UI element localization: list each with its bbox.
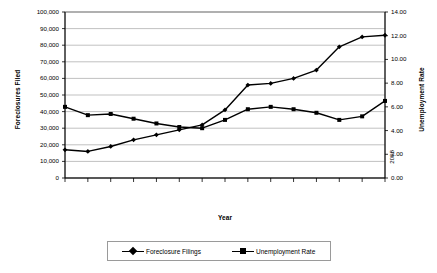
chart-legend: Foreclosure Filings Unemployment Rate — [107, 241, 331, 261]
data-point-unemployment-rate — [200, 126, 204, 130]
data-point-unemployment-rate — [269, 105, 273, 109]
data-point-unemployment-rate — [132, 117, 136, 121]
legend-label: Foreclosure Filings — [146, 248, 201, 255]
legend-marker-diamond-icon — [122, 247, 144, 255]
data-point-unemployment-rate — [246, 107, 250, 111]
legend-item-unemployment-rate: Unemployment Rate — [232, 247, 315, 255]
plot-area — [0, 0, 437, 273]
data-point-unemployment-rate — [177, 125, 181, 129]
data-point-unemployment-rate — [109, 112, 113, 116]
legend-item-foreclosure-filings: Foreclosure Filings — [122, 247, 201, 255]
data-point-unemployment-rate — [63, 105, 67, 109]
data-point-unemployment-rate — [292, 107, 296, 111]
legend-label: Unemployment Rate — [256, 248, 315, 255]
legend-marker-square-icon — [232, 247, 254, 255]
data-point-unemployment-rate — [86, 113, 90, 117]
foreclosure-unemployment-chart: Foreclosures Filed Unemployment Rate Yea… — [0, 0, 437, 273]
data-point-unemployment-rate — [154, 121, 158, 125]
data-point-unemployment-rate — [337, 118, 341, 122]
data-point-unemployment-rate — [360, 114, 364, 118]
data-point-unemployment-rate — [223, 118, 227, 122]
data-point-unemployment-rate — [383, 99, 387, 103]
data-point-unemployment-rate — [314, 111, 318, 115]
